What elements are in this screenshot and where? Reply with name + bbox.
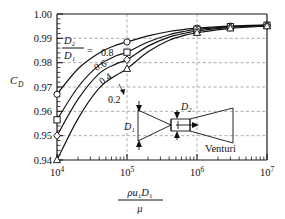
- x-axis-title-denominator: μ: [136, 203, 142, 214]
- y-axis-title-main: C: [10, 74, 18, 86]
- marker-0.6-1: [124, 49, 130, 55]
- venturi-caption: Venturi: [205, 143, 236, 154]
- y-axis-title-sub: D: [17, 80, 24, 89]
- ratio-denominator: D₁: [63, 50, 75, 61]
- d2-label: D₂: [180, 101, 192, 112]
- y-tick-label: 0.98: [34, 57, 52, 68]
- y-tick-label: 1.00: [34, 9, 52, 20]
- d1-label: D₁: [123, 121, 135, 132]
- y-tick-label: 0.94: [34, 155, 53, 166]
- y-tick-label: 0.97: [34, 82, 52, 93]
- curve-label-0.2: 0.2: [108, 94, 121, 105]
- ratio-numerator: D₂: [63, 35, 76, 46]
- y-tick-label: 0.95: [34, 130, 52, 141]
- y-tick-label: 0.99: [34, 33, 52, 44]
- marker-0.8-1: [124, 39, 130, 45]
- figure-container: 0.940.950.960.970.980.991.00 10410510610…: [0, 0, 285, 219]
- curve-label-0.8: 0.8: [101, 47, 114, 58]
- venturi-discharge-coefficient-chart: 0.940.950.960.970.980.991.00 10410510610…: [0, 0, 285, 219]
- marker-0.6-0: [54, 117, 60, 123]
- marker-0.8-0: [54, 91, 60, 97]
- y-tick-label: 0.96: [34, 106, 52, 117]
- ratio-equals: =: [87, 45, 93, 56]
